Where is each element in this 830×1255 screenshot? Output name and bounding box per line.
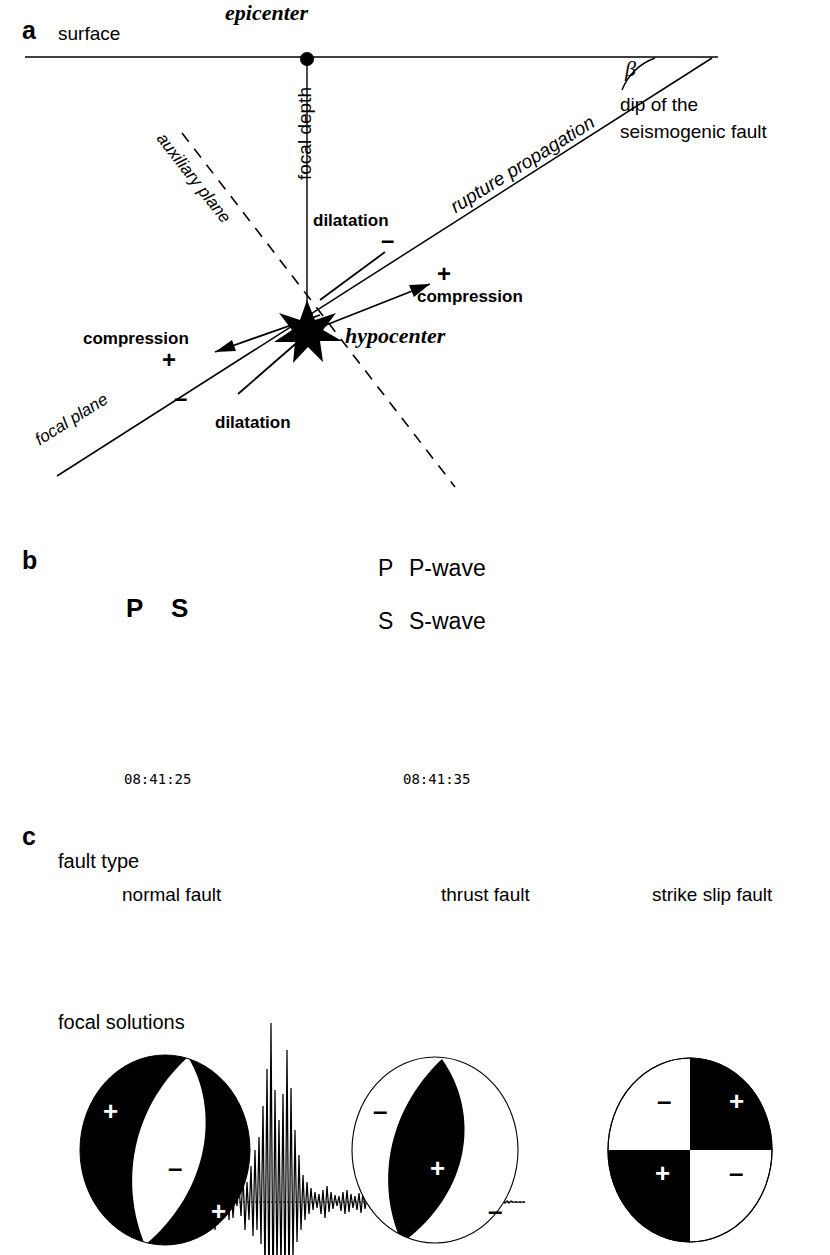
- dip-label-line1: dip of the: [620, 95, 698, 114]
- beachball-3-quadrant-lower-left: [590, 1150, 690, 1250]
- time-tick-label-2: 08:41:35: [403, 772, 470, 786]
- fault-block-diagrams: [0, 905, 830, 1065]
- focal-solution-strike-slip-fault: [590, 1055, 810, 1255]
- thrust-fault-label: thrust fault: [441, 885, 530, 904]
- strike-slip-fault-label: strike slip fault: [652, 885, 772, 904]
- epicenter-dot: [300, 52, 314, 66]
- slip-arrow-lower-head: [215, 340, 236, 352]
- time-tick-label-1: 08:41:25: [124, 772, 191, 786]
- panel-a-graphics: [0, 0, 830, 520]
- fault-type-heading: fault type: [58, 851, 139, 871]
- panel-b-seismogram: [0, 530, 830, 780]
- beachball-1-sign-center: –: [168, 1155, 181, 1181]
- compression-label-left: compression: [83, 330, 189, 347]
- focal-plane-line: [57, 58, 712, 476]
- dilatation-label-top: dilatation: [313, 212, 389, 229]
- minus-sign-bottom: –: [174, 386, 186, 410]
- dip-label-line2: seismogenic fault: [620, 122, 767, 141]
- focal-depth-label: focal depth: [295, 87, 314, 180]
- dilatation-label-bottom: dilatation: [215, 414, 291, 431]
- beachball-3-sign-upper-left: –: [657, 1088, 670, 1114]
- beachball-1-sign-lower-right: +: [211, 1198, 226, 1224]
- plus-sign-right: +: [437, 262, 451, 286]
- focal-solutions-heading: focal solutions: [58, 1012, 185, 1032]
- dilatation-upper-leader: [320, 252, 385, 300]
- hypocenter-label: hypocenter: [345, 325, 445, 347]
- dilatation-lower-leader: [238, 340, 300, 394]
- beachball-2-sign-upper-left: –: [373, 1098, 386, 1124]
- panel-c-letter: c: [22, 824, 36, 849]
- beachball-2-sign-center: +: [430, 1155, 445, 1181]
- epicenter-label: epicenter: [225, 2, 308, 24]
- beachball-3-sign-upper-right: +: [729, 1088, 744, 1114]
- normal-fault-label: normal fault: [122, 885, 221, 904]
- beachball-2-sign-lower-right: –: [488, 1198, 501, 1224]
- auxiliary-plane-line: [182, 133, 455, 487]
- surface-label: surface: [58, 24, 120, 43]
- beta-angle-label: β: [625, 58, 636, 80]
- compression-label-right: compression: [417, 288, 523, 305]
- plus-sign-left: +: [162, 348, 176, 372]
- beachball-3-sign-lower-left: +: [655, 1160, 670, 1186]
- beachball-1-sign-upper-left: +: [103, 1098, 118, 1124]
- beachball-3-sign-lower-right: –: [729, 1160, 742, 1186]
- minus-sign-top: –: [381, 228, 393, 252]
